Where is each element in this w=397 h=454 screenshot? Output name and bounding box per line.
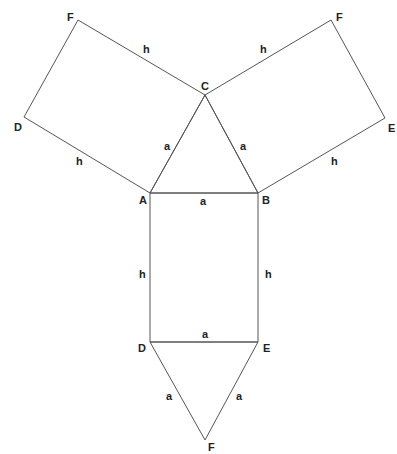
edge-label-de: a [202,328,209,340]
vertex-label-f-bottom: F [208,441,215,453]
edge-label-center-right: h [265,268,272,280]
vertex-label-d-left: D [14,121,22,133]
edge-label-ab: a [200,195,207,207]
left-rectangle-face [24,20,205,193]
vertex-label-f-left: F [67,11,74,23]
vertex-label-b: B [262,194,270,206]
edge-label-triangle-right: a [240,140,247,152]
vertex-label-e-right: E [388,122,395,134]
right-rectangle-face [205,20,385,193]
vertex-label-c: C [201,80,209,92]
edge-label-center-left: h [139,268,146,280]
vertex-label-f-right: F [336,11,343,23]
edge-label-right-rect-bottom: h [331,155,338,167]
edge-label-left-rect-bottom: h [76,155,83,167]
vertex-label-d-bottom: D [138,342,146,354]
edge-label-triangle-left: a [164,140,171,152]
center-rectangle-face [150,193,258,342]
edge-label-bottom-left: a [166,390,173,402]
edge-label-right-rect-top: h [260,43,267,55]
edge-label-left-rect-top: h [143,43,150,55]
prism-net-diagram: F D C F E A B D E F h h h h a a a h h a … [0,0,397,454]
edge-label-bottom-right: a [236,390,243,402]
vertex-label-a: A [139,194,147,206]
vertex-label-e-bottom: E [263,342,270,354]
